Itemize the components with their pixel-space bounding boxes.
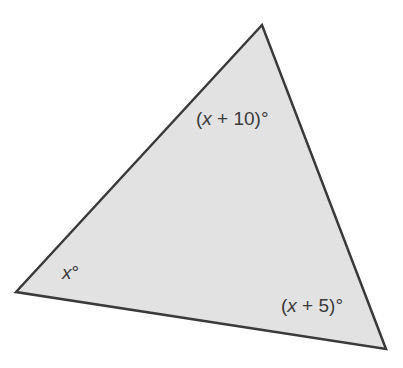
angle-label-left: x°: [62, 262, 79, 284]
angle-label-bottom-right: (x + 5)°: [281, 295, 343, 317]
angle-label-top: (x + 10)°: [196, 108, 269, 130]
